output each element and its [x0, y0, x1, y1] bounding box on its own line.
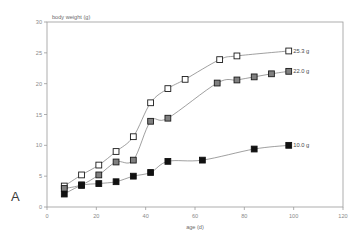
x-axis-ticks: 020406080100120 [45, 207, 347, 219]
x-tick-label: 120 [338, 213, 347, 219]
data-point-marker [113, 179, 119, 185]
data-point-marker [96, 181, 102, 187]
x-tick-label: 0 [45, 213, 48, 219]
data-point-marker [130, 157, 136, 163]
y-axis-ticks: 051015202530 [36, 19, 47, 210]
data-point-marker [61, 191, 67, 197]
data-point-marker [165, 86, 171, 92]
y-tick-label: 30 [36, 19, 42, 25]
x-tick-label: 80 [241, 213, 247, 219]
series-line [64, 71, 288, 188]
data-point-marker [217, 57, 223, 63]
data-point-marker [234, 53, 240, 59]
data-point-marker [148, 170, 154, 176]
x-tick-label: 20 [93, 213, 99, 219]
data-point-marker [148, 100, 154, 106]
panel-label: A [11, 189, 20, 204]
data-point-marker [79, 183, 85, 189]
x-axis-title: age (d) [186, 224, 204, 230]
data-point-marker [251, 146, 257, 152]
data-point-marker [96, 162, 102, 168]
data-point-marker [269, 71, 275, 77]
x-tick-label: 60 [192, 213, 198, 219]
data-point-marker [113, 149, 119, 155]
data-point-marker [130, 173, 136, 179]
data-point-marker [182, 76, 188, 82]
data-point-marker [113, 159, 119, 165]
x-tick-label: 40 [143, 213, 149, 219]
data-point-marker [61, 186, 67, 192]
series-endpoint-label: 22.0 g [293, 68, 309, 74]
y-tick-label: 0 [39, 204, 42, 210]
growth-curve-chart: 020406080100120 051015202530 body weight… [0, 0, 364, 239]
data-point-marker [286, 48, 292, 54]
data-point-marker [165, 115, 171, 121]
data-point-marker [96, 172, 102, 178]
series-black-square-series: 10.0 g [61, 142, 309, 197]
data-point-marker [286, 142, 292, 148]
data-point-marker [234, 77, 240, 83]
y-tick-label: 25 [36, 50, 42, 56]
y-axis-title: body weight (g) [52, 14, 90, 20]
data-point-marker [200, 157, 206, 163]
data-point-marker [148, 118, 154, 124]
figure-panel: A 020406080100120 051015202530 body weig… [0, 0, 364, 239]
data-point-marker [214, 80, 220, 86]
series-endpoint-label: 10.0 g [293, 142, 309, 148]
series-open-square-series: 25.3 g [61, 48, 309, 189]
data-point-marker [286, 68, 292, 74]
y-tick-label: 5 [39, 173, 42, 179]
data-point-marker [251, 74, 257, 80]
y-tick-label: 15 [36, 112, 42, 118]
y-tick-label: 10 [36, 142, 42, 148]
data-point-marker [165, 158, 171, 164]
data-series-layer: 25.3 g22.0 g10.0 g [61, 48, 309, 197]
series-endpoint-label: 25.3 g [293, 48, 309, 54]
data-point-marker [130, 134, 136, 140]
y-tick-label: 20 [36, 81, 42, 87]
x-tick-label: 100 [289, 213, 298, 219]
data-point-marker [79, 172, 85, 178]
series-gray-square-series: 22.0 g [61, 68, 309, 191]
